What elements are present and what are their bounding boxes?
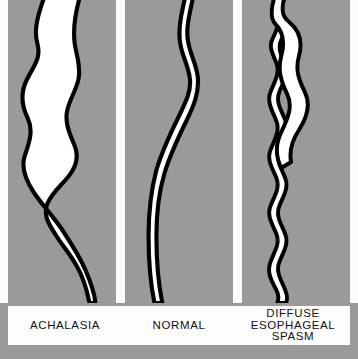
diffuse-esophageal-spasm-diagram [242,0,350,303]
caption-achalasia-line-1: ACHALASIA [8,320,122,332]
achalasia-lumen-shape [22,0,95,303]
caption-normal-line-1: NORMAL [122,320,236,332]
gutter-one [116,0,125,303]
gutter-two [233,0,242,303]
caption-normal: NORMAL [122,320,236,332]
caption-band: ACHALASIA NORMAL DIFFUSE ESOPHAGEAL SPAS… [8,306,350,345]
esophageal-motility-figure: ACHALASIA NORMAL DIFFUSE ESOPHAGEAL SPAS… [0,0,358,359]
gutter-right [350,0,358,303]
panel-normal [125,0,233,303]
caption-spasm-line-1: DIFFUSE [236,308,350,320]
achalasia-diagram [8,0,116,303]
caption-achalasia: ACHALASIA [8,320,122,332]
caption-spasm-line-3: SPASM [236,331,350,343]
caption-diffuse-esophageal-spasm: DIFFUSE ESOPHAGEAL SPASM [236,308,350,343]
panel-row [0,0,358,303]
gutter-left [0,0,8,303]
panel-achalasia [8,0,116,303]
panel-diffuse-esophageal-spasm [242,0,350,303]
normal-lumen-shape [149,0,198,303]
normal-diagram [125,0,233,303]
